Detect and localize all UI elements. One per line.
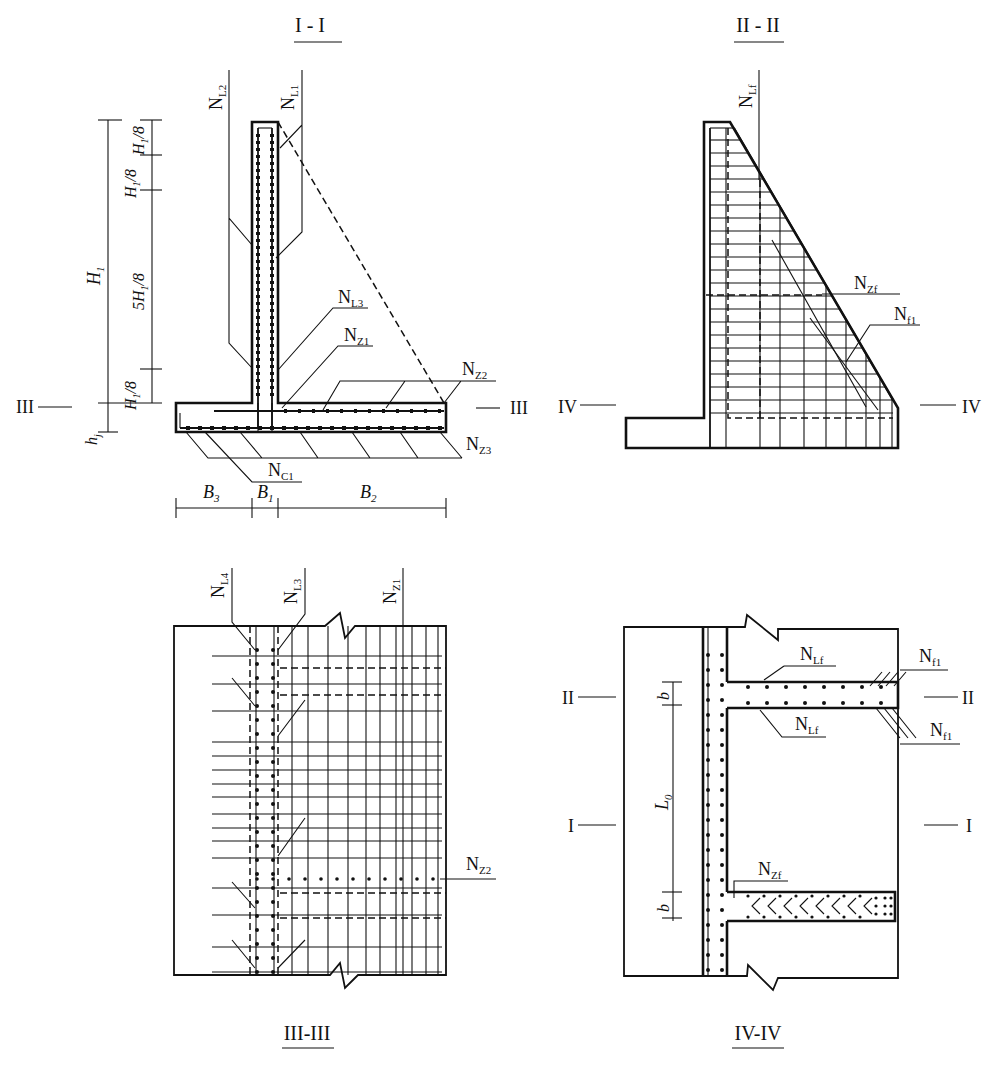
svg-text:III: III [510,398,528,418]
section-title-I-I: I - I [295,14,325,36]
section-I-I: I - I NL2 NL1 NL3 NZ1 [16,14,528,518]
section-IV-IV: NLf NLf Nf1 Nf1 NZf b L0 b II II I I IV-… [562,615,974,1048]
svg-text:B1: B1 [257,482,274,504]
svg-text:IV: IV [558,397,577,417]
svg-text:NL3: NL3 [338,287,364,309]
svg-text:NLf: NLf [795,714,819,736]
retaining-wall-reinforcement-diagram: I - I NL2 NL1 NL3 NZ1 [0,0,990,1074]
section-title-II-II: II - II [736,14,779,36]
svg-text:I: I [568,816,574,836]
section-title-III-III: III-III [284,1022,331,1044]
svg-text:H1: H1 [84,267,106,287]
svg-text:III: III [16,397,34,417]
section-title-IV-IV: IV-IV [734,1022,782,1044]
svg-text:NC1: NC1 [268,460,294,482]
svg-text:I: I [966,816,972,836]
svg-text:NZ2: NZ2 [466,854,491,876]
svg-text:Nf1: Nf1 [919,646,941,668]
svg-text:IV: IV [962,397,981,417]
svg-text:5H1/8: 5H1/8 [130,273,150,310]
wall-outline [176,122,446,432]
svg-text:L0: L0 [652,794,674,811]
svg-text:H1/8: H1/8 [130,126,150,156]
svg-text:b: b [655,692,672,700]
svg-text:NL2: NL2 [206,85,228,110]
svg-text:NL3: NL3 [281,578,303,604]
svg-text:NZf: NZf [854,273,878,295]
svg-text:b: b [655,904,672,912]
svg-text:NL4: NL4 [208,572,230,598]
svg-text:H1/8: H1/8 [122,169,142,199]
svg-text:B3: B3 [203,482,220,504]
svg-text:Nf1: Nf1 [930,720,952,742]
svg-text:NZf: NZf [758,859,782,881]
counterfort-outline [278,122,444,403]
svg-text:B2: B2 [360,482,377,504]
svg-text:NZ1: NZ1 [344,325,369,347]
section-III-III: NL4 NL3 NZ1 NZ2 III-III [174,568,496,1048]
svg-text:NLf: NLf [736,84,758,108]
svg-text:NZ2: NZ2 [462,359,487,381]
svg-text:II: II [962,688,974,708]
svg-text:NZ1: NZ1 [380,579,402,604]
svg-text:H1/8: H1/8 [122,381,142,411]
svg-text:hj: hj [83,434,103,445]
svg-text:NL1: NL1 [278,85,300,110]
svg-text:II: II [562,688,574,708]
svg-text:NLf: NLf [800,644,824,666]
plan-outline [174,613,446,988]
svg-text:NZ3: NZ3 [466,434,492,456]
section-II-II: II - II NLf NZf Nf1 IV IV [558,14,981,448]
svg-text:Nf1: Nf1 [894,304,916,326]
